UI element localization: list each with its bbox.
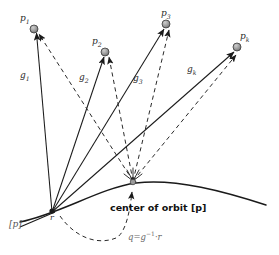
label-bracket-p: [p] xyxy=(9,220,22,229)
dashed-p3 xyxy=(133,30,169,181)
node-p2 xyxy=(101,48,109,56)
label-g3: g3 xyxy=(133,74,143,85)
equation-q: q=g−1·r xyxy=(128,231,162,241)
label-gk: gk xyxy=(187,65,197,76)
label-p3: p3 xyxy=(161,9,171,20)
label-p1: p1 xyxy=(20,14,30,25)
arrow-g1 xyxy=(37,33,53,212)
dashed-p1 xyxy=(39,34,133,181)
orbit-diagram-figure: p1 p2 p3 pk g1 g2 g3 gk r [p] center of … xyxy=(0,0,279,255)
diagram-canvas xyxy=(0,0,279,255)
equation-rhs: r xyxy=(158,232,162,242)
caption-center-of-orbit: center of orbit [p] xyxy=(110,203,206,213)
node-p3 xyxy=(162,20,170,28)
node-p1 xyxy=(30,25,38,33)
node-pk xyxy=(233,43,241,51)
equation-exponent: −1 xyxy=(146,230,155,237)
dashed-p2 xyxy=(109,57,133,181)
label-r: r xyxy=(50,214,54,222)
point-nodes xyxy=(30,20,241,56)
label-pk: pk xyxy=(240,32,250,43)
q-dashed-curve xyxy=(60,192,132,241)
g-action-arrows xyxy=(37,29,235,212)
label-p2: p2 xyxy=(92,37,102,48)
orbit-dashed-arrows xyxy=(39,30,236,181)
label-g1: g1 xyxy=(20,71,30,82)
label-g2: g2 xyxy=(79,73,89,84)
equation-equals: = xyxy=(133,232,140,242)
